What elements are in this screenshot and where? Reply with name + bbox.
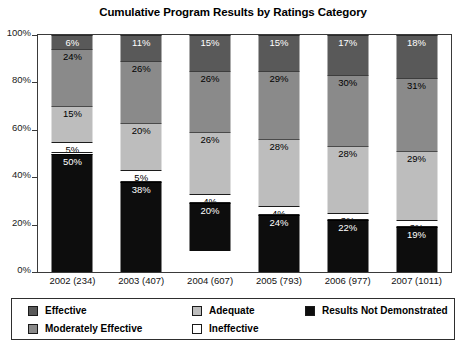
bar-segment-value-label: 4% — [203, 195, 217, 203]
x-axis-tick-label: 2007 (1011) — [382, 275, 451, 287]
stacked-bar-chart: Cumulative Program Results by Ratings Ca… — [0, 0, 466, 347]
y-axis-tick-label: 100% — [7, 28, 31, 38]
bar-segment-value-label: 15% — [63, 107, 82, 119]
bar-stack: 11%26%20%5%38% — [121, 35, 162, 272]
bar-segment-value-label: 20% — [132, 124, 151, 136]
y-axis: 100%80%60%40%20%0% — [0, 34, 37, 273]
bar-segment[interactable]: 4% — [258, 206, 299, 215]
bar-segment-value-label: 28% — [269, 140, 288, 152]
bar-segment-value-label: 26% — [201, 72, 220, 84]
legend-swatch-icon — [192, 324, 202, 334]
bar-segment-value-label: 30% — [338, 76, 357, 88]
x-axis-tick-label: 2004 (607) — [176, 275, 245, 287]
bar-stack: 15%29%28%4%24% — [258, 35, 299, 272]
bar-segment[interactable]: 11% — [121, 35, 162, 61]
bar-segment[interactable]: 50% — [52, 154, 93, 273]
bar-column[interactable]: 15%29%28%4%24% — [245, 35, 314, 272]
bar-segment[interactable]: 4% — [190, 194, 231, 203]
legend-item[interactable]: Adequate — [192, 305, 255, 316]
bar-segment[interactable]: 26% — [190, 132, 231, 194]
bar-segment[interactable]: 26% — [190, 71, 231, 133]
bar-segment-value-label: 31% — [407, 79, 426, 91]
bar-column[interactable]: 18%31%29%3%19% — [382, 35, 451, 272]
y-axis-tick-label: 20% — [12, 218, 31, 228]
legend-swatch-icon — [305, 306, 315, 316]
chart-title: Cumulative Program Results by Ratings Ca… — [0, 6, 466, 18]
y-axis-tick-label: 40% — [12, 170, 31, 180]
bars-layer: 6%24%15%5%50%11%26%20%5%38%15%26%26%4%20… — [38, 35, 451, 272]
bar-segment-value-label: 50% — [63, 155, 82, 167]
y-axis-tick-label: 0% — [17, 265, 31, 275]
x-axis-tick-label: 2003 (407) — [107, 275, 176, 287]
legend-item[interactable]: Effective — [28, 305, 87, 316]
bar-column[interactable]: 6%24%15%5%50% — [38, 35, 107, 272]
bar-segment[interactable]: 24% — [52, 49, 93, 106]
bar-segment-value-label: 29% — [407, 152, 426, 164]
bar-segment[interactable]: 20% — [190, 203, 231, 250]
legend-swatch-icon — [28, 306, 38, 316]
bar-stack: 6%24%15%5%50% — [52, 35, 93, 272]
bar-segment[interactable]: 3% — [327, 213, 368, 220]
bar-segment[interactable]: 30% — [327, 75, 368, 146]
bar-segment-value-label: 4% — [272, 207, 286, 215]
legend-swatch-icon — [192, 306, 202, 316]
bar-segment[interactable]: 31% — [396, 78, 437, 151]
bar-segment[interactable]: 38% — [121, 182, 162, 272]
bar-segment[interactable]: 24% — [258, 215, 299, 272]
bar-segment[interactable]: 5% — [52, 142, 93, 154]
y-axis-tick-label: 60% — [12, 123, 31, 133]
bar-segment[interactable]: 5% — [121, 170, 162, 182]
bar-segment-value-label: 5% — [134, 171, 148, 182]
legend-item-label: Results Not Demonstrated — [322, 305, 448, 316]
x-axis-tick-label: 2006 (977) — [313, 275, 382, 287]
bar-segment-value-label: 11% — [132, 36, 150, 48]
bar-segment-value-label: 24% — [269, 216, 288, 228]
bar-column[interactable]: 17%30%28%3%22% — [313, 35, 382, 272]
bar-column[interactable]: 11%26%20%5%38% — [107, 35, 176, 272]
bar-segment[interactable]: 18% — [396, 35, 437, 78]
bar-stack: 15%26%26%4%20% — [190, 35, 231, 272]
bar-segment[interactable]: 15% — [190, 35, 231, 71]
bar-segment[interactable]: 28% — [258, 139, 299, 205]
bar-segment[interactable]: 22% — [327, 220, 368, 272]
legend-swatch-icon — [28, 324, 38, 334]
bar-stack: 17%30%28%3%22% — [327, 35, 368, 272]
legend-item-label: Moderately Effective — [45, 323, 142, 334]
bar-segment-value-label: 15% — [269, 36, 288, 48]
bar-segment-value-label: 26% — [132, 62, 151, 74]
bar-segment-value-label: 28% — [338, 147, 357, 159]
legend-item[interactable]: Ineffective — [192, 323, 258, 334]
bar-segment-value-label: 19% — [407, 228, 426, 240]
bar-column[interactable]: 15%26%26%4%20% — [176, 35, 245, 272]
bar-stack: 18%31%29%3%19% — [396, 35, 437, 272]
y-axis-tick-label: 80% — [12, 75, 31, 85]
bar-segment[interactable]: 26% — [121, 61, 162, 123]
x-axis: 2002 (234)2003 (407)2004 (607)2005 (793)… — [38, 275, 451, 291]
bar-segment-value-label: 15% — [201, 36, 220, 48]
bar-segment[interactable]: 19% — [396, 227, 437, 272]
bar-segment-value-label: 18% — [407, 36, 426, 48]
bar-segment[interactable]: 28% — [327, 146, 368, 212]
bar-segment[interactable]: 20% — [121, 123, 162, 170]
x-axis-tick-label: 2002 (234) — [38, 275, 107, 287]
bar-segment[interactable]: 3% — [396, 220, 437, 227]
bar-segment-value-label: 20% — [201, 204, 220, 216]
bar-segment-value-label: 5% — [66, 143, 80, 154]
chart-legend: EffectiveAdequateResults Not Demonstrate… — [11, 298, 455, 340]
bar-segment-value-label: 22% — [338, 221, 357, 233]
bar-segment[interactable]: 17% — [327, 35, 368, 75]
bar-segment[interactable]: 29% — [396, 151, 437, 220]
legend-item[interactable]: Moderately Effective — [28, 323, 142, 334]
bar-segment[interactable]: 29% — [258, 71, 299, 140]
legend-item-label: Adequate — [209, 305, 255, 316]
x-axis-tick-label: 2005 (793) — [245, 275, 314, 287]
bar-segment-value-label: 26% — [201, 133, 220, 145]
bar-segment[interactable]: 6% — [52, 35, 93, 49]
bar-segment-value-label: 29% — [269, 72, 288, 84]
bar-segment-value-label: 6% — [66, 36, 80, 48]
bar-segment-value-label: 24% — [63, 50, 82, 62]
bar-segment[interactable]: 15% — [258, 35, 299, 71]
bar-segment-value-label: 38% — [132, 183, 151, 195]
bar-segment[interactable]: 15% — [52, 106, 93, 142]
legend-item[interactable]: Results Not Demonstrated — [305, 305, 448, 316]
